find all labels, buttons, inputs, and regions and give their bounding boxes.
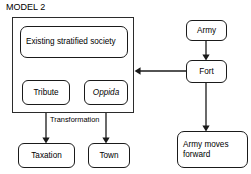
node-label: Army <box>187 26 226 36</box>
diagram-title: MODEL 2 <box>6 2 45 12</box>
node-army[interactable]: Army <box>186 20 227 41</box>
node-label: Existing stratified society <box>26 37 127 47</box>
node-army-moves-forward[interactable]: Army moves forward <box>177 131 248 168</box>
node-existing-stratified-society[interactable]: Existing stratified society <box>20 26 128 58</box>
node-label: Taxation <box>19 151 74 161</box>
node-fort[interactable]: Fort <box>186 60 227 83</box>
diagram-canvas: MODEL 2 Existing strat <box>0 0 251 174</box>
node-label: Tribute <box>23 88 69 98</box>
node-label: Army moves forward <box>183 140 247 160</box>
node-oppida[interactable]: Oppida <box>84 80 128 105</box>
node-label: Oppida <box>85 88 127 98</box>
edge-label-transformation: Transformation <box>48 115 101 124</box>
node-taxation[interactable]: Taxation <box>18 143 75 168</box>
node-town[interactable]: Town <box>88 143 130 168</box>
node-label: Town <box>89 151 129 161</box>
node-tribute[interactable]: Tribute <box>22 80 70 105</box>
node-label: Fort <box>187 67 226 77</box>
